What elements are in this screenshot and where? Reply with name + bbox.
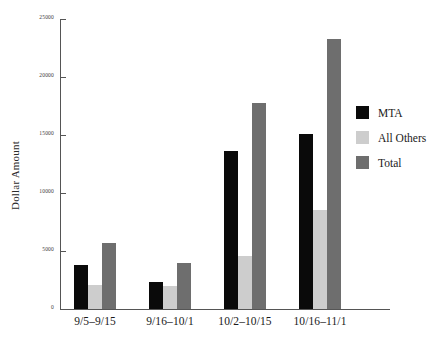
y-axis-tick-label: 20000 [39, 72, 54, 78]
bar [88, 285, 102, 309]
legend-label: All Others [378, 132, 426, 144]
bar [313, 210, 327, 309]
chart-legend: MTAAll OthersTotal [356, 100, 444, 175]
bar-group-bars [74, 19, 116, 309]
x-axis-label: 9/5–9/15 [56, 315, 134, 327]
legend-swatch [356, 106, 369, 119]
y-axis-tick-label: 25000 [39, 14, 54, 20]
y-axis-tick: 0 [60, 309, 66, 310]
legend-item: All Others [356, 125, 444, 150]
bar-group-bars [299, 19, 341, 309]
bar [252, 103, 266, 309]
x-axis-label: 10/2–10/15 [206, 315, 284, 327]
y-axis-tick-label: 10000 [39, 188, 54, 194]
bar [238, 256, 252, 309]
legend-item: MTA [356, 100, 444, 125]
bar-group [74, 19, 116, 309]
y-axis-tick: 15000 [60, 135, 66, 136]
bar-group [149, 19, 191, 309]
y-axis-tick-label: 5000 [42, 246, 54, 252]
bar-group-bars [149, 19, 191, 309]
legend-swatch [356, 156, 369, 169]
y-axis-tick: 5000 [60, 251, 66, 252]
bar [149, 282, 163, 309]
legend-label: MTA [378, 107, 403, 119]
bar-group [299, 19, 341, 309]
y-axis-tick: 25000 [60, 19, 66, 20]
bar-group-bars [224, 19, 266, 309]
bar-group [224, 19, 266, 309]
y-axis-tick: 20000 [60, 77, 66, 78]
y-axis-tick-label: 0 [51, 304, 54, 310]
legend-label: Total [378, 157, 401, 169]
x-axis-label: 10/16–11/1 [281, 315, 359, 327]
bar [74, 265, 88, 309]
x-axis-label: 9/16–10/1 [131, 315, 209, 327]
legend-item: Total [356, 150, 444, 175]
bar [224, 151, 238, 309]
bar [327, 39, 341, 309]
bar [177, 263, 191, 309]
bar [102, 243, 116, 309]
y-axis-tick: 10000 [60, 193, 66, 194]
y-axis-title: Dollar Amount [6, 126, 24, 226]
legend-swatch [356, 131, 369, 144]
x-axis-line [60, 309, 390, 310]
bar [163, 286, 177, 309]
y-axis-line [60, 19, 61, 310]
bar-chart: Dollar Amount 0500010000150002000025000 … [0, 0, 448, 345]
y-axis-tick-label: 15000 [39, 130, 54, 136]
plot-area: 0500010000150002000025000 9/5–9/159/16–1… [60, 19, 390, 310]
bar [299, 134, 313, 309]
